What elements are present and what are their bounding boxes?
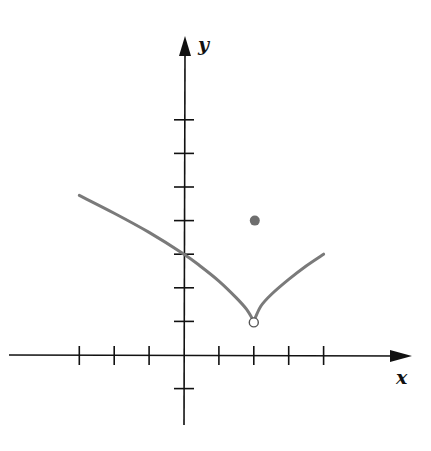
y-axis-label: y xyxy=(197,33,211,55)
x-axis-line xyxy=(9,355,400,356)
y-axis-arrow-icon xyxy=(179,36,191,56)
open-circle-hole xyxy=(249,318,258,327)
curves xyxy=(79,195,323,321)
function-graph: x y xyxy=(0,0,431,451)
curve-left-branch xyxy=(79,195,254,321)
x-axis-label: x xyxy=(395,366,408,388)
filled-point xyxy=(250,216,260,226)
tick-marks xyxy=(79,120,323,389)
curve-right-branch xyxy=(254,254,324,321)
x-axis-arrow-icon xyxy=(390,350,412,362)
y-axis-line xyxy=(184,52,185,425)
axes xyxy=(9,36,412,425)
